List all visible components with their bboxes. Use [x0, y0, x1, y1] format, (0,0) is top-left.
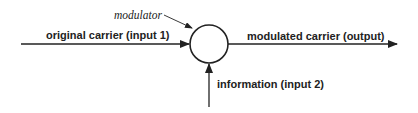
modulator-node [190, 25, 228, 63]
output-label: modulated carrier (output) [247, 30, 385, 42]
modulator-diagram: modulator original carrier (input 1) mod… [0, 0, 418, 113]
input1-label: original carrier (input 1) [46, 29, 170, 41]
modulator-label: modulator [114, 9, 162, 21]
input2-label: information (input 2) [217, 78, 324, 90]
modulator-pointer-arrow [164, 15, 192, 28]
